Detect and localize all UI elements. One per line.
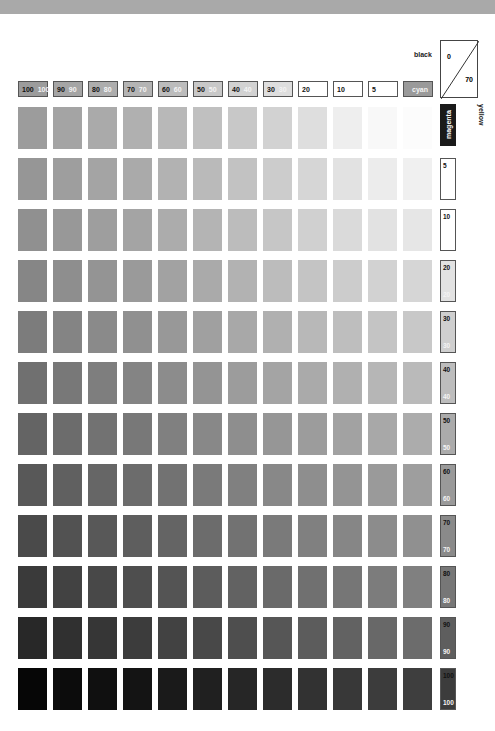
tint-swatch <box>88 107 117 149</box>
tint-swatch <box>193 617 222 659</box>
tint-swatch <box>228 617 257 659</box>
tint-swatch <box>333 668 362 710</box>
row-value: 60 <box>443 468 450 475</box>
tint-swatch <box>158 209 187 251</box>
tint-swatch <box>403 566 432 608</box>
header-value: 30 <box>267 86 275 93</box>
tint-swatch <box>193 209 222 251</box>
tint-swatch <box>298 413 327 455</box>
row-header: 4040 <box>440 362 456 404</box>
corner-bottom-value: 70 <box>465 76 473 83</box>
tint-swatch <box>263 668 292 710</box>
tint-swatch <box>298 260 327 302</box>
tint-swatch <box>18 668 47 710</box>
column-header: 6060 <box>158 81 188 97</box>
tint-swatch <box>368 617 397 659</box>
tint-swatch <box>298 566 327 608</box>
row-value-secondary: 50 <box>443 444 450 451</box>
tint-swatch <box>298 617 327 659</box>
row-value-secondary: 100 <box>443 699 454 706</box>
tint-swatch <box>298 107 327 149</box>
row-value: 40 <box>443 366 450 373</box>
corner-key: 0 70 <box>440 40 478 98</box>
row-header: 9090 <box>440 617 456 659</box>
tint-swatch <box>123 464 152 506</box>
tint-swatch <box>53 566 82 608</box>
row-value: 50 <box>443 417 450 424</box>
tint-swatch <box>263 464 292 506</box>
tint-swatch <box>403 413 432 455</box>
tint-swatch <box>18 107 47 149</box>
corner-top-value: 0 <box>447 53 451 60</box>
tint-swatch <box>53 515 82 557</box>
tint-swatch <box>123 668 152 710</box>
row-header: 5 <box>440 158 456 200</box>
row-value: 5 <box>443 162 447 169</box>
column-header: 5 <box>368 81 398 97</box>
tint-swatch <box>18 413 47 455</box>
tint-swatch <box>333 617 362 659</box>
tint-swatch <box>333 464 362 506</box>
row-header: 10 <box>440 209 456 251</box>
column-header: 4040 <box>228 81 258 97</box>
tint-swatch <box>123 311 152 353</box>
tint-swatch <box>18 158 47 200</box>
tint-swatch <box>123 566 152 608</box>
tint-swatch <box>123 107 152 149</box>
tint-swatch <box>403 464 432 506</box>
tint-swatch <box>193 464 222 506</box>
tint-swatch <box>88 566 117 608</box>
top-band <box>0 0 495 14</box>
tint-swatch <box>333 362 362 404</box>
header-value-secondary: 60 <box>174 86 182 93</box>
tint-swatch <box>88 260 117 302</box>
tint-swatch <box>333 107 362 149</box>
row-value-secondary: 20 <box>443 291 450 298</box>
tint-swatch <box>403 515 432 557</box>
tint-swatch <box>88 209 117 251</box>
row-value-secondary: 90 <box>443 648 450 655</box>
tint-swatch <box>403 617 432 659</box>
tint-swatch <box>158 362 187 404</box>
tint-swatch <box>333 413 362 455</box>
tint-swatch <box>263 260 292 302</box>
column-header: 8080 <box>88 81 118 97</box>
tint-swatch <box>158 515 187 557</box>
row-header: 7070 <box>440 515 456 557</box>
tint-swatch <box>403 209 432 251</box>
tint-swatch <box>368 362 397 404</box>
tint-swatch <box>368 566 397 608</box>
column-header: 3030 <box>263 81 293 97</box>
tint-swatch <box>18 209 47 251</box>
header-value-secondary: 90 <box>69 86 77 93</box>
tint-swatch <box>18 362 47 404</box>
tint-swatch <box>88 464 117 506</box>
header-value: 5 <box>372 86 376 93</box>
header-value-secondary: 50 <box>209 86 217 93</box>
row-value-secondary: 80 <box>443 597 450 604</box>
tint-swatch <box>368 515 397 557</box>
header-value-secondary: 70 <box>139 86 147 93</box>
tint-swatch <box>263 617 292 659</box>
yellow-label: yellow <box>478 104 485 125</box>
tint-swatch <box>193 260 222 302</box>
tint-swatch <box>88 158 117 200</box>
tint-swatch <box>193 158 222 200</box>
tint-swatch <box>18 464 47 506</box>
tint-swatch <box>228 260 257 302</box>
tint-swatch <box>123 362 152 404</box>
tint-swatch <box>263 413 292 455</box>
tint-swatch <box>228 566 257 608</box>
tint-swatch <box>193 668 222 710</box>
tint-swatch <box>263 107 292 149</box>
tint-swatch <box>368 464 397 506</box>
row-value: 80 <box>443 570 450 577</box>
tint-swatch <box>228 413 257 455</box>
header-value: 20 <box>302 86 310 93</box>
tint-swatch <box>403 362 432 404</box>
header-value-secondary: cyan <box>412 86 428 93</box>
column-header: 20 <box>298 81 328 97</box>
tint-swatch <box>193 107 222 149</box>
magenta-label: magenta <box>440 104 456 146</box>
tint-swatch <box>158 260 187 302</box>
